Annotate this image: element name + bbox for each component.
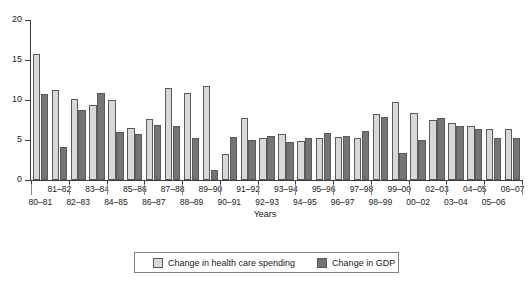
x-axis-tick-label: 92–93 (250, 196, 284, 208)
bar-gdp (211, 170, 218, 180)
bar-group (429, 20, 444, 180)
bar-group (146, 20, 161, 180)
bar-health-care-spending (448, 123, 455, 180)
bar-gdp (324, 133, 331, 180)
y-axis-tick-label: 20 (0, 15, 22, 24)
x-axis-tick-label: 80–81 (23, 196, 57, 208)
x-axis-label-divider (295, 184, 296, 195)
bar-group (165, 20, 180, 180)
bar-health-care-spending (52, 90, 59, 180)
bar-gdp (343, 136, 350, 180)
x-axis-label-divider (69, 184, 70, 195)
bar-health-care-spending (241, 118, 248, 180)
bar-group (335, 20, 350, 180)
bar-gdp (494, 138, 501, 180)
bar-gdp (192, 138, 199, 180)
bar-gdp (362, 131, 369, 180)
y-axis-tick-label: 5 (0, 135, 22, 144)
bar-group (486, 20, 501, 180)
x-axis-line (30, 180, 522, 181)
x-axis-label-divider (409, 184, 410, 195)
x-axis-tick-label: 94–95 (288, 196, 322, 208)
x-axis-tick-label: 82–83 (61, 196, 95, 208)
x-axis-tick-label: 06–07 (496, 183, 530, 195)
bar-series-container (31, 20, 522, 180)
bar-health-care-spending (165, 88, 172, 180)
legend-swatch-health-care-spending (153, 258, 163, 268)
x-axis-tick-label: 95–96 (307, 183, 341, 195)
bar-gdp (267, 136, 274, 180)
legend-swatch-gdp (317, 258, 327, 268)
x-axis-tick-label: 86–87 (137, 196, 171, 208)
x-axis-tick-label: 96–97 (326, 196, 360, 208)
bar-group (184, 20, 199, 180)
bar-health-care-spending (89, 105, 96, 180)
x-axis-label-divider (220, 184, 221, 195)
bar-group (33, 20, 48, 180)
x-axis-tick-label: 83–84 (80, 183, 114, 195)
bar-group (108, 20, 123, 180)
bar-health-care-spending (467, 126, 474, 180)
bar-health-care-spending (108, 100, 115, 180)
legend-item-health-care-spending: Change in health care spending (153, 258, 295, 268)
legend-label-gdp: Change in GDP (332, 258, 395, 268)
x-axis-tick-label: 02–03 (420, 183, 454, 195)
bar-health-care-spending (373, 114, 380, 180)
x-axis-tick-label: 89–90 (193, 183, 227, 195)
bar-group (354, 20, 369, 180)
y-axis-tick-label: 15 (0, 55, 22, 64)
x-axis-label-divider (446, 184, 447, 195)
bar-gdp (513, 138, 520, 180)
x-axis-tick-label: 04–05 (458, 183, 492, 195)
bar-health-care-spending (222, 154, 229, 180)
bar-gdp (154, 125, 161, 180)
bar-health-care-spending (278, 134, 285, 180)
bar-health-care-spending (297, 141, 304, 180)
x-axis-label-divider (107, 184, 108, 195)
bar-gdp (135, 134, 142, 180)
bar-gdp (41, 94, 48, 180)
x-axis-tick-label: 93–94 (269, 183, 303, 195)
bar-group (89, 20, 104, 180)
bar-group (448, 20, 463, 180)
bar-health-care-spending (410, 113, 417, 180)
bar-gdp (78, 110, 85, 180)
x-axis-tick-label: 90–91 (212, 196, 246, 208)
bar-group (203, 20, 218, 180)
bar-gdp (437, 118, 444, 180)
legend-item-gdp: Change in GDP (317, 258, 395, 268)
bar-gdp (173, 126, 180, 180)
x-axis-label-divider (182, 184, 183, 195)
bar-group (278, 20, 293, 180)
bar-gdp (248, 140, 255, 180)
x-axis-tick-label: 91–92 (231, 183, 265, 195)
legend: Change in health care spending Change in… (134, 252, 399, 273)
x-axis-tick-label: 85–86 (118, 183, 152, 195)
bar-group (297, 20, 312, 180)
x-axis-label-divider (484, 184, 485, 195)
bar-health-care-spending (429, 120, 436, 180)
x-axis-tick-label: 87–88 (156, 183, 190, 195)
x-axis-label-divider (144, 184, 145, 195)
x-axis-label-divider (333, 184, 334, 195)
x-axis-label-divider (522, 184, 523, 195)
x-axis-tick-label: 88–89 (175, 196, 209, 208)
bar-group (467, 20, 482, 180)
bar-health-care-spending (259, 138, 266, 180)
bar-health-care-spending (184, 93, 191, 180)
bar-gdp (456, 126, 463, 180)
x-axis-tick-label: 00–02 (401, 196, 435, 208)
bar-gdp (286, 142, 293, 180)
bar-group (127, 20, 142, 180)
bar-gdp (399, 153, 406, 180)
x-axis-tick-label: 99–00 (382, 183, 416, 195)
x-axis-tick-label: 97–98 (344, 183, 378, 195)
x-axis-tick-label: 98–99 (363, 196, 397, 208)
bar-gdp (305, 138, 312, 180)
bar-gdp (116, 132, 123, 180)
bar-group (52, 20, 67, 180)
bar-gdp (418, 140, 425, 180)
x-axis-title: Years (0, 209, 530, 219)
bar-group (410, 20, 425, 180)
x-axis-tick-label: 81–82 (42, 183, 76, 195)
